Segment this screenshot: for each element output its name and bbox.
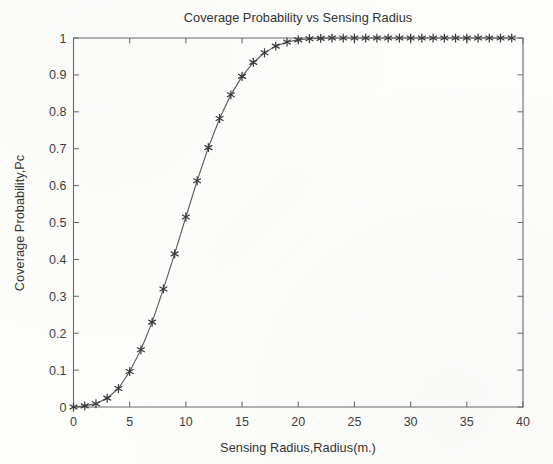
x-tick-label: 25 — [347, 415, 361, 429]
y-tick-label: 1 — [60, 32, 67, 46]
x-axis-label: Sensing Radius,Radius(m.) — [220, 440, 376, 455]
y-tick-label: 0.1 — [49, 364, 66, 378]
y-tick-label: 0.9 — [49, 68, 66, 82]
y-tick-label: 0.4 — [49, 253, 66, 267]
x-tick-label: 30 — [404, 415, 418, 429]
y-tick-label: 0.8 — [49, 105, 66, 119]
x-tick-label: 0 — [70, 415, 77, 429]
coverage-probability-line-chart: Coverage Probability vs Sensing Radius 0… — [0, 0, 553, 464]
x-tick-label: 5 — [126, 415, 133, 429]
chart-title: Coverage Probability vs Sensing Radius — [184, 10, 412, 25]
y-tick-label: 0.3 — [49, 290, 66, 304]
x-tick-label: 35 — [460, 415, 474, 429]
y-axis-label: Coverage Probability,Pc — [12, 154, 27, 291]
y-tick-label: 0 — [60, 401, 67, 415]
x-tick-label: 10 — [179, 415, 193, 429]
x-tick-label: 40 — [516, 415, 530, 429]
x-tick-label: 15 — [235, 415, 249, 429]
y-tick-label: 0.7 — [49, 142, 66, 156]
y-tick-label: 0.6 — [49, 179, 66, 193]
x-tick-label: 20 — [291, 415, 305, 429]
chart-figure: Coverage Probability vs Sensing Radius 0… — [0, 0, 553, 464]
y-tick-label: 0.5 — [49, 216, 66, 230]
y-tick-label: 0.2 — [49, 327, 66, 341]
figure-background — [0, 0, 553, 464]
